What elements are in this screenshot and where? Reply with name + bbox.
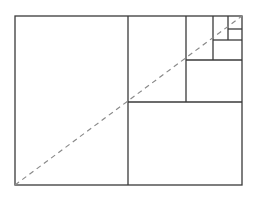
golden-rectangle-diagram	[0, 0, 256, 200]
subdivision-lines	[128, 16, 242, 185]
